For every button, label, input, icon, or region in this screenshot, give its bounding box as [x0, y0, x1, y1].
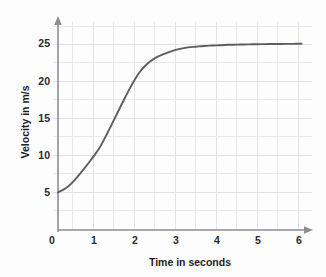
- y-tick-label-15: 15: [38, 112, 50, 124]
- velocity-time-chart-figure: 25 20 15 10 5 0 1 2 3 4 5 6 Velocity in …: [0, 0, 326, 277]
- y-tick-label-10: 10: [38, 149, 50, 161]
- x-tick-label-1: 1: [91, 234, 97, 246]
- x-tick-label-0: 0: [49, 234, 55, 246]
- x-tick-label-5: 5: [255, 234, 261, 246]
- x-tick-label-3: 3: [173, 234, 179, 246]
- y-tick-label-25: 25: [38, 37, 50, 49]
- y-tick-label-5: 5: [44, 186, 50, 198]
- x-tick-label-6: 6: [296, 234, 302, 246]
- x-tick-label-4: 4: [214, 234, 220, 246]
- y-tick-label-20: 20: [38, 75, 50, 87]
- x-tick-label-2: 2: [132, 234, 138, 246]
- y-axis-title: Velocity in m/s: [19, 85, 31, 158]
- chart-canvas: 25 20 15 10 5 0 1 2 3 4 5 6 Velocity in …: [0, 0, 326, 277]
- x-axis-title: Time in seconds: [149, 256, 231, 268]
